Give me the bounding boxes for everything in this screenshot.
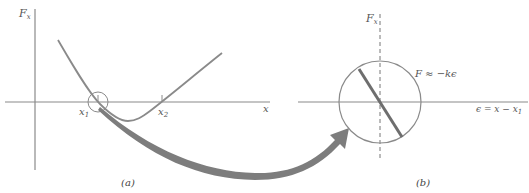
force-law-label: F ≈ −kϵ [414, 68, 457, 79]
root1-label: x1 [79, 106, 89, 119]
magnify-arrow [98, 107, 349, 180]
root2-label: x2 [158, 106, 169, 119]
panel-a: Fx x x1 x2 (a) [5, 7, 270, 188]
panel-b: Fx F ≈ −kϵ ϵ = x − x1 (b) [298, 12, 528, 188]
panel-b-caption: (b) [416, 177, 430, 188]
panel-b-y-label: Fx [365, 12, 378, 26]
panel-a-y-label: Fx [18, 7, 31, 21]
panel-b-x-label: ϵ = x − x1 [476, 104, 522, 116]
figure-stage: Fx x x1 x2 (a) Fx F ≈ −kϵ ϵ = x − x1 (b) [0, 0, 529, 193]
panel-a-x-label: x [263, 103, 269, 114]
panel-a-caption: (a) [121, 177, 135, 188]
arrow-body [98, 107, 349, 180]
figure-svg: Fx x x1 x2 (a) Fx F ≈ −kϵ ϵ = x − x1 (b) [0, 0, 529, 193]
